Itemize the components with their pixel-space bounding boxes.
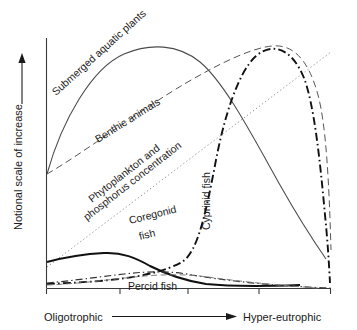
curve-submerged-aquatic-plants: [47, 47, 326, 259]
label-benthic-animals: Benthic animals: [93, 95, 162, 144]
y-axis-label-group: Notional scale of increase: [12, 53, 26, 230]
chart-svg: Notional scale of increase Submerged aqu: [0, 0, 357, 330]
y-axis-label: Notional scale of increase: [12, 104, 24, 230]
label-cyprinid-fish: Cyprinid fish: [200, 172, 212, 230]
x-axis-arrow-head: [226, 313, 237, 320]
x-axis-label-right: Hyper-eutrophic: [243, 311, 322, 323]
label-percid-fish: Percid fish: [128, 280, 177, 292]
y-axis-arrow-head: [18, 53, 25, 63]
label-coregonid-line2: fish: [138, 226, 157, 242]
label-coregonid-line1: Coregonid: [128, 203, 178, 226]
label-submerged-aquatic-plants: Submerged aquatic plants: [49, 7, 148, 98]
x-axis-label-left: Oligotrophic: [44, 311, 103, 323]
chart-figure: Notional scale of increase Submerged aqu: [0, 0, 357, 330]
